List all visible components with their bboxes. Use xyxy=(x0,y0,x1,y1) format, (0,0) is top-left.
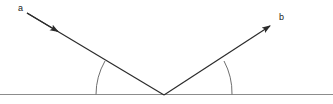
reflected-ray-b xyxy=(164,26,270,95)
incident-ray-arrowhead xyxy=(27,13,58,32)
angle-arc-reflection xyxy=(224,61,232,95)
incident-ray-label-a: a xyxy=(18,4,23,13)
reflected-ray-label-b: b xyxy=(279,13,284,22)
reflection-diagram: a b xyxy=(0,0,333,104)
angle-arc-incidence xyxy=(96,61,105,95)
